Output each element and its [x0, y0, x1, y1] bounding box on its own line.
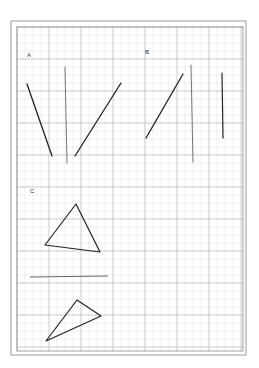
a-slant-right-line [75, 83, 121, 156]
graph-paper-sheet: A B C [0, 0, 259, 368]
outer-border [11, 21, 246, 355]
a-slant-left-line [27, 84, 52, 156]
section-c-divider-line [30, 276, 108, 277]
section-label-c: C [30, 188, 35, 194]
section-label-b: B [145, 49, 149, 55]
section-label-a: A [27, 52, 31, 58]
b-thin-vertical-line [191, 65, 193, 162]
section-c-triangle-2 [46, 300, 101, 341]
b-diagonal-line [146, 74, 183, 138]
grid [17, 27, 243, 351]
section-b-lines [146, 65, 223, 162]
